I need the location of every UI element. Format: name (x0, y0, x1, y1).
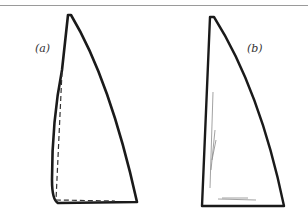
sail-a-outline (52, 15, 137, 203)
sail-diagram (0, 0, 308, 219)
sail-b (202, 17, 284, 206)
sail-a (52, 15, 137, 203)
sail-b-shading (210, 92, 256, 200)
panel-label-b: (b) (247, 42, 263, 55)
panel-label-a: (a) (35, 42, 50, 55)
sail-b-outline (202, 17, 284, 206)
